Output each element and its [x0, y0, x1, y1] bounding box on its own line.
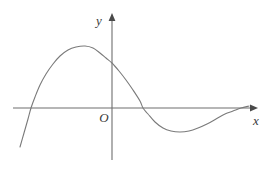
y-axis-arrowhead	[109, 13, 116, 21]
x-axis-arrowhead	[250, 105, 258, 112]
origin-label: O	[99, 110, 109, 125]
y-axis-label: y	[94, 13, 102, 28]
figure-container: y x O	[0, 0, 274, 169]
coordinate-plot: y x O	[0, 0, 274, 169]
x-axis-label: x	[252, 113, 259, 128]
function-curve	[20, 46, 249, 147]
